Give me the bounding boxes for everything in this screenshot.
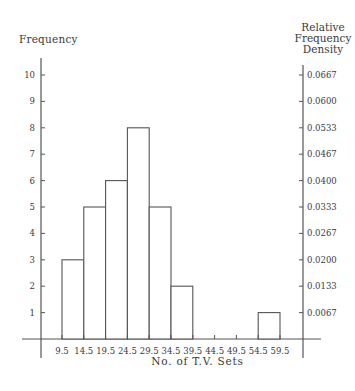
left-tick-label: 7 bbox=[30, 149, 35, 159]
right-tick-label: 0.0200 bbox=[307, 255, 337, 265]
histogram-bar bbox=[258, 313, 280, 339]
right-tick-label: 0.0133 bbox=[307, 281, 337, 291]
right-tick-label: 0.0467 bbox=[307, 149, 337, 159]
left-tick-label: 3 bbox=[30, 255, 35, 265]
histogram-bar bbox=[62, 260, 84, 339]
right-tick-label: 0.0667 bbox=[307, 70, 337, 80]
histogram-bars bbox=[62, 128, 280, 339]
histogram-bar bbox=[127, 128, 149, 339]
x-axis-title: No. of T.V. Sets bbox=[0, 355, 355, 367]
left-tick-label: 10 bbox=[24, 70, 35, 80]
left-tick-label: 2 bbox=[30, 281, 35, 291]
right-axis-ticks: 0.00670.01330.02000.02670.03330.04000.04… bbox=[299, 70, 337, 318]
histogram-bar bbox=[84, 207, 106, 339]
histogram-chart: 12345678910 0.00670.01330.02000.02670.03… bbox=[0, 0, 355, 391]
histogram-bar bbox=[106, 181, 128, 339]
right-tick-label: 0.0600 bbox=[307, 96, 337, 106]
left-tick-label: 5 bbox=[30, 202, 35, 212]
histogram-bar bbox=[149, 207, 171, 339]
right-tick-label: 0.0400 bbox=[307, 176, 337, 186]
left-tick-label: 4 bbox=[30, 228, 35, 238]
histogram-bar bbox=[171, 286, 193, 339]
right-tick-label: 0.0067 bbox=[307, 308, 337, 318]
left-tick-label: 8 bbox=[30, 123, 35, 133]
left-tick-label: 9 bbox=[30, 96, 35, 106]
right-tick-label: 0.0533 bbox=[307, 123, 337, 133]
left-tick-label: 6 bbox=[30, 176, 35, 186]
left-axis-ticks: 12345678910 bbox=[24, 70, 45, 318]
right-tick-label: 0.0267 bbox=[307, 228, 337, 238]
left-tick-label: 1 bbox=[30, 308, 35, 318]
right-tick-label: 0.0333 bbox=[307, 202, 337, 212]
